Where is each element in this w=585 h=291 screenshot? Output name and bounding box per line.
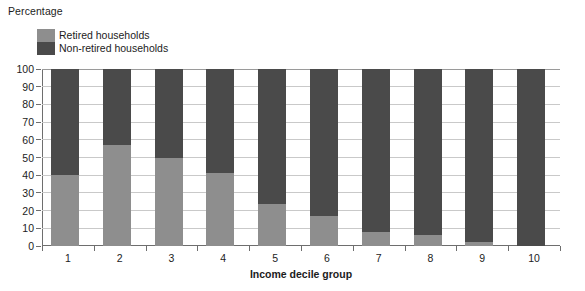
bar-segment-retired[interactable] [258,204,286,246]
y-axis-tick-mark [36,69,41,70]
stacked-bar[interactable] [517,69,545,246]
y-axis-tick-label: 50 [22,153,34,163]
bar-segment-non-retired[interactable] [51,69,79,175]
x-axis-tick-mark [353,246,354,251]
y-axis-tick-mark [36,210,41,211]
bar-slot [353,69,405,246]
x-axis-tick-mark [197,246,198,251]
x-axis-tick-label: 8 [405,252,457,264]
bar-segment-retired[interactable] [155,158,183,247]
x-axis-tick-mark [560,246,561,251]
stacked-bar[interactable] [51,69,79,246]
bar-slot [94,69,146,246]
legend-label-non-retired: Non-retired households [59,42,168,55]
stacked-bar[interactable] [206,69,234,246]
bar-segment-retired[interactable] [310,216,338,246]
stacked-bar[interactable] [414,69,442,246]
x-axis-tick-mark [94,246,95,251]
y-axis-tick-label: 70 [22,117,34,127]
bar-slot [197,69,249,246]
x-axis-tick-mark [42,246,43,251]
bar-segment-non-retired[interactable] [362,69,390,232]
legend-item-retired: Retired households [37,29,168,42]
non-retired-swatch-icon [37,42,55,55]
legend-label-retired: Retired households [59,29,149,42]
stacked-bar[interactable] [155,69,183,246]
x-axis-tick-mark [301,246,302,251]
bar-segment-non-retired[interactable] [103,69,131,145]
bar-slot [456,69,508,246]
x-axis-tick-label: 6 [301,252,353,264]
x-axis-tick-label: 1 [42,252,94,264]
y-axis-title: Percentage [8,5,63,17]
bar-segment-retired[interactable] [465,242,493,246]
x-axis-title: Income decile group [42,268,560,280]
y-axis-tick-mark [36,157,41,158]
x-axis-tick-mark [508,246,509,251]
bar-segment-non-retired[interactable] [517,69,545,246]
plot-area: 12345678910 Income decile group [42,69,560,246]
y-axis-tick-mark [36,86,41,87]
x-axis-tick-label: 5 [249,252,301,264]
bar-slot [42,69,94,246]
stacked-bar[interactable] [465,69,493,246]
y-axis-tick-label: 10 [22,223,34,233]
x-axis-tick-mark [456,246,457,251]
x-axis-tick-label: 2 [94,252,146,264]
retired-swatch-icon [37,29,55,42]
y-axis-tick-label: 90 [22,82,34,92]
bar-slot [146,69,198,246]
stacked-bar-chart: Percentage Retired households Non-retire… [0,0,585,291]
y-axis-tick-mark [36,228,41,229]
bar-slot [508,69,560,246]
bar-segment-non-retired[interactable] [310,69,338,216]
bar-segment-non-retired[interactable] [465,69,493,242]
y-axis-tick-mark [36,246,41,247]
bar-segment-retired[interactable] [206,173,234,246]
bar-slot [301,69,353,246]
y-axis-tick-label: 40 [22,170,34,180]
x-axis-tick-mark [405,246,406,251]
y-axis-tick-label: 100 [16,64,34,74]
y-axis-tick-mark [36,122,41,123]
bar-segment-non-retired[interactable] [414,69,442,235]
x-axis-tick-label: 4 [197,252,249,264]
x-axis-tick-label: 9 [456,252,508,264]
x-axis-tick-mark [146,246,147,251]
x-axis-tick-label: 3 [146,252,198,264]
y-axis-tick-mark [36,192,41,193]
bar-series-layer [42,69,560,246]
y-axis-tick-mark [36,104,41,105]
chart-legend: Retired households Non-retired household… [37,29,168,55]
stacked-bar[interactable] [103,69,131,246]
bar-segment-non-retired[interactable] [155,69,183,158]
y-axis-tick-mark [36,139,41,140]
y-axis-tick-mark [36,175,41,176]
stacked-bar[interactable] [258,69,286,246]
bar-segment-non-retired[interactable] [258,69,286,204]
bar-slot [249,69,301,246]
stacked-bar[interactable] [310,69,338,246]
y-axis-tick-label: 0 [28,241,34,251]
y-axis-tick-label: 20 [22,206,34,216]
bar-segment-retired[interactable] [414,235,442,246]
y-axis-tick-label: 80 [22,99,34,109]
x-axis-tick-label: 7 [353,252,405,264]
bar-segment-retired[interactable] [103,145,131,246]
bar-segment-non-retired[interactable] [206,69,234,173]
y-axis-tick-labels: 0102030405060708090100 [0,69,34,246]
bar-slot [405,69,457,246]
legend-item-non-retired: Non-retired households [37,42,168,55]
y-axis-tick-label: 30 [22,188,34,198]
x-axis-tick-label: 10 [508,252,560,264]
x-axis-tick-mark [249,246,250,251]
bar-segment-retired[interactable] [362,232,390,246]
stacked-bar[interactable] [362,69,390,246]
bar-segment-retired[interactable] [51,175,79,246]
y-axis-tick-label: 60 [22,135,34,145]
